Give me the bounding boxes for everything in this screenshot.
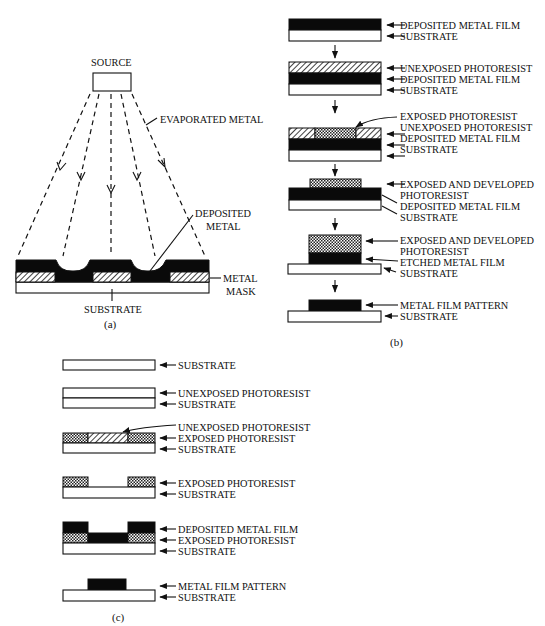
evaporated-metal-label: EVAPORATED METAL bbox=[160, 114, 263, 125]
label-unexposed-photoresist: UNEXPOSED PHOTORESIST bbox=[178, 422, 311, 433]
label-deposited-metal-film: DEPOSITED METAL FILM bbox=[178, 524, 298, 535]
step-b1: DEPOSITED METAL FILM SUBSTRATE bbox=[289, 19, 520, 42]
label-substrate: SUBSTRATE bbox=[400, 311, 458, 322]
source-label: SOURCE bbox=[91, 57, 132, 68]
step-b6: METAL FILM PATTERN SUBSTRATE bbox=[288, 300, 509, 322]
label-metal-film-pattern: METAL FILM PATTERN bbox=[178, 581, 287, 592]
label-substrate: SUBSTRATE bbox=[178, 399, 236, 410]
panel-a: SOURCE EVAPORATED METAL DE bbox=[16, 57, 263, 331]
deposited-metal-label-2: METAL bbox=[206, 221, 241, 232]
figure-canvas: SOURCE EVAPORATED METAL DE bbox=[0, 0, 545, 626]
label-etched-metal-film: ETCHED METAL FILM bbox=[400, 257, 505, 268]
label-unexposed-photoresist: UNEXPOSED PHOTORESIST bbox=[400, 63, 533, 74]
label-substrate: SUBSTRATE bbox=[178, 360, 236, 371]
label-photoresist: PHOTORESIST bbox=[400, 190, 469, 201]
metal-mask-label-1: METAL bbox=[223, 273, 258, 284]
label-substrate: SUBSTRATE bbox=[178, 592, 236, 603]
substrate-label-a: SUBSTRATE bbox=[84, 304, 142, 315]
label-exposed-photoresist: EXPOSED PHOTORESIST bbox=[178, 478, 296, 489]
metal-mask-segment bbox=[93, 272, 131, 282]
caption-c: (c) bbox=[112, 611, 125, 624]
label-substrate: SUBSTRATE bbox=[178, 444, 236, 455]
label-exposed-photoresist: EXPOSED PHOTORESIST bbox=[400, 111, 518, 122]
label-unexposed-photoresist: UNEXPOSED PHOTORESIST bbox=[178, 388, 311, 399]
label-metal-film-pattern: METAL FILM PATTERN bbox=[400, 300, 509, 311]
label-deposited-metal-film: DEPOSITED METAL FILM bbox=[400, 201, 520, 212]
step-b5: EXPOSED AND DEVELOPED PHOTORESIST ETCHED… bbox=[288, 235, 534, 279]
step-c1: SUBSTRATE bbox=[63, 360, 236, 371]
evaporated-metal-leader bbox=[146, 118, 157, 125]
metal-mask-label-2: MASK bbox=[226, 286, 256, 297]
mask-deposit-structure bbox=[16, 260, 209, 293]
caption-b: (b) bbox=[390, 336, 403, 349]
label-exposed-developed-photoresist: EXPOSED AND DEVELOPED bbox=[400, 235, 534, 246]
step-b2: UNEXPOSED PHOTORESIST DEPOSITED METAL FI… bbox=[289, 62, 533, 96]
panel-b: DEPOSITED METAL FILM SUBSTRATE UNEXPOSED… bbox=[288, 19, 534, 349]
label-exposed-photoresist: EXPOSED PHOTORESIST bbox=[178, 433, 296, 444]
label-unexposed-photoresist: UNEXPOSED PHOTORESIST bbox=[400, 122, 533, 133]
step-b3: EXPOSED PHOTORESIST UNEXPOSED PHOTORESIS… bbox=[289, 111, 533, 161]
caption-a: (a) bbox=[104, 318, 117, 331]
label-substrate: SUBSTRATE bbox=[400, 212, 458, 223]
label-exposed-photoresist: EXPOSED PHOTORESIST bbox=[178, 535, 296, 546]
label-substrate: SUBSTRATE bbox=[400, 85, 458, 96]
label-deposited-metal-film: DEPOSITED METAL FILM bbox=[400, 133, 520, 144]
step-c6: METAL FILM PATTERN SUBSTRATE bbox=[63, 579, 287, 603]
label-substrate: SUBSTRATE bbox=[178, 546, 236, 557]
label-substrate: SUBSTRATE bbox=[400, 144, 458, 155]
deposited-metal-label-1: DEPOSITED bbox=[195, 208, 252, 219]
step-c4: EXPOSED PHOTORESIST SUBSTRATE bbox=[63, 477, 296, 500]
step-c3: UNEXPOSED PHOTORESIST EXPOSED PHOTORESIS… bbox=[63, 422, 311, 455]
label-substrate: SUBSTRATE bbox=[400, 31, 458, 42]
label-substrate: SUBSTRATE bbox=[178, 489, 236, 500]
label-exposed-developed-photoresist: EXPOSED AND DEVELOPED bbox=[400, 179, 534, 190]
metal-mask-segment bbox=[16, 272, 55, 282]
metal-mask-segment bbox=[170, 272, 209, 282]
panel-c: SUBSTRATE UNEXPOSED PHOTORESIST SUBSTRAT… bbox=[63, 360, 311, 624]
source-box bbox=[93, 73, 131, 91]
label-deposited-metal-film: DEPOSITED METAL FILM bbox=[400, 74, 520, 85]
step-b4: EXPOSED AND DEVELOPED PHOTORESIST DEPOSI… bbox=[289, 179, 534, 223]
label-substrate: SUBSTRATE bbox=[400, 268, 458, 279]
label-photoresist: PHOTORESIST bbox=[400, 246, 469, 257]
label-deposited-metal-film: DEPOSITED METAL FILM bbox=[400, 20, 520, 31]
step-c5: DEPOSITED METAL FILM EXPOSED PHOTORESIST… bbox=[63, 522, 298, 557]
step-c2: UNEXPOSED PHOTORESIST SUBSTRATE bbox=[63, 388, 311, 410]
